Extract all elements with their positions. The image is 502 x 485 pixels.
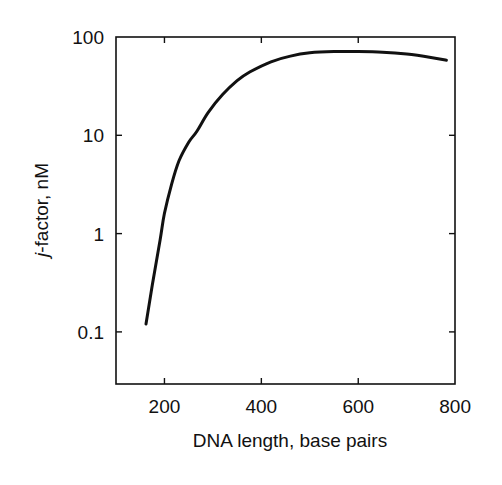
x-tick-label: 800 <box>439 396 471 417</box>
y-axis-ticks: 0.1110100 <box>72 27 455 343</box>
y-axis-title: j-factor, nM <box>31 163 52 260</box>
data-line <box>146 51 446 324</box>
chart: 200400600800 0.1110100 DNA length, base … <box>0 0 502 485</box>
y-tick-label: 0.1 <box>78 322 104 343</box>
y-tick-label: 1 <box>93 224 104 245</box>
x-axis-title: DNA length, base pairs <box>193 430 387 451</box>
x-axis-ticks: 200400600800 <box>149 37 471 417</box>
y-tick-label: 100 <box>72 27 104 48</box>
y-tick-label: 10 <box>83 125 104 146</box>
plot-frame <box>116 37 455 384</box>
x-tick-label: 600 <box>342 396 374 417</box>
x-tick-label: 400 <box>245 396 277 417</box>
y-axis-title-rest: -factor, nM <box>31 163 52 253</box>
x-tick-label: 200 <box>149 396 181 417</box>
